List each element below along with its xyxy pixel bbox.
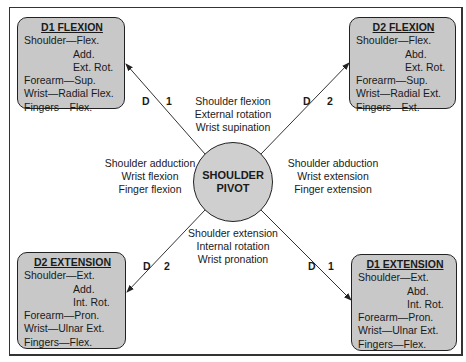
box-row: Wrist—Radial Ext. (356, 87, 455, 100)
motion-line: Shoulder adduction (95, 157, 205, 170)
box-row: Int. Rot. (24, 296, 125, 309)
box-row: Forearm—Pron. (358, 311, 456, 324)
motion-line: Finger extension (280, 183, 386, 196)
diagonal-label-br-d: D (308, 260, 316, 272)
box-row: Shoulder—Ext. (24, 269, 125, 282)
diagonal-label-tl-d: D (142, 95, 150, 107)
box-row: Int. Rot. (358, 298, 456, 311)
motion-line: Wrist supination (183, 121, 283, 134)
box-row: Add. (24, 48, 124, 61)
box-row: Forearm—Pron. (24, 309, 125, 322)
box-row: Abd. (356, 48, 455, 61)
box-row: Wrist—Ulnar Ext. (358, 324, 456, 337)
motion-line: Wrist flexion (95, 170, 205, 183)
box-title: D1 FLEXION (24, 21, 124, 34)
pivot-label-line1: SHOULDER (202, 169, 264, 182)
motion-line: Wrist extension (280, 170, 386, 183)
motion-line: Internal rotation (181, 240, 285, 253)
box-row: Fingers—Flex. (24, 336, 125, 349)
diagonal-label-tr-d: D (303, 95, 311, 107)
box-row: Forearm—Sup. (24, 74, 124, 87)
diagonal-label-bl-n: 2 (164, 260, 170, 272)
box-row: Shoulder—Flex. (24, 34, 124, 47)
box-row: Wrist—Radial Flex. (24, 87, 124, 100)
box-row: Add. (24, 283, 125, 296)
motion-line: Shoulder flexion (183, 95, 283, 108)
motion-line: External rotation (183, 108, 283, 121)
diagonal-label-bl-d: D (143, 260, 151, 272)
diagonal-label-br-n: 1 (328, 260, 334, 272)
box-row: Ext. Rot. (24, 61, 124, 74)
motion-line: Shoulder extension (181, 227, 285, 240)
box-d2-extension: D2 EXTENSION Shoulder—Ext. Add. Int. Rot… (17, 252, 126, 349)
diagonal-label-tr-n: 2 (327, 95, 333, 107)
motion-top: Shoulder flexion External rotation Wrist… (183, 95, 283, 134)
box-row: Fingers—Flex. (358, 338, 456, 351)
box-row: Shoulder—Flex. (356, 34, 455, 47)
box-title: D2 EXTENSION (24, 256, 125, 269)
box-title: D1 EXTENSION (358, 258, 456, 271)
box-row: Ext. Rot. (356, 61, 455, 74)
box-row: Forearm—Sup. (356, 74, 455, 87)
box-row: Fingers—Ext. (356, 101, 455, 114)
motion-line: Shoulder abduction (280, 157, 386, 170)
motion-line: Wrist pronation (181, 253, 285, 266)
shoulder-pivot-circle: SHOULDER PIVOT (193, 142, 273, 222)
box-d1-extension: D1 EXTENSION Shoulder—Ext. Abd. Int. Rot… (351, 254, 457, 351)
box-row: Shoulder—Ext. (358, 271, 456, 284)
box-d1-flexion: D1 FLEXION Shoulder—Flex. Add. Ext. Rot.… (17, 17, 125, 109)
diagonal-label-tl-n: 1 (166, 95, 172, 107)
motion-bottom: Shoulder extension Internal rotation Wri… (181, 227, 285, 266)
pivot-label-line2: PIVOT (216, 182, 249, 195)
motion-left: Shoulder adduction Wrist flexion Finger … (95, 157, 205, 196)
box-d2-flexion: D2 FLEXION Shoulder—Flex. Abd. Ext. Rot.… (349, 17, 456, 109)
box-title: D2 FLEXION (356, 21, 455, 34)
box-row: Wrist—Ulnar Ext. (24, 322, 125, 335)
motion-line: Finger flexion (95, 183, 205, 196)
box-row: Fingers—Flex. (24, 101, 124, 114)
motion-right: Shoulder abduction Wrist extension Finge… (280, 157, 386, 196)
box-row: Abd. (358, 285, 456, 298)
